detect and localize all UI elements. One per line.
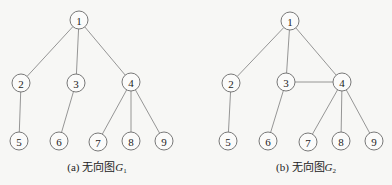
node-label: 9	[161, 136, 167, 148]
node-g2-4: 4	[333, 73, 351, 91]
node-g1-4: 4	[122, 73, 140, 91]
node-label: 4	[128, 77, 134, 89]
caption-g2: (b) 无向图G2	[276, 158, 336, 175]
node-label: 1	[287, 16, 293, 28]
node-g2-1: 1	[281, 12, 299, 30]
node-g2-8: 8	[332, 132, 350, 150]
node-g1-5: 5	[10, 132, 28, 150]
edge-g2-1-2	[237, 28, 284, 77]
edge-g2-4-9	[346, 90, 369, 133]
node-label: 9	[371, 136, 377, 148]
caption-g1: (a) 无向图G1	[67, 158, 126, 175]
node-g2-6: 6	[259, 132, 277, 150]
node-label: 7	[95, 137, 101, 149]
edge-g1-1-3	[76, 29, 78, 74]
node-g1-7: 7	[89, 133, 107, 151]
node-label: 3	[283, 77, 289, 89]
node-g1-2: 2	[12, 74, 30, 92]
edge-g1-4-9	[135, 90, 159, 133]
node-g2-3: 3	[277, 73, 295, 91]
node-label: 5	[225, 136, 231, 148]
node-g2-2: 2	[222, 74, 240, 92]
graph-g1: 123456789	[10, 11, 173, 151]
edge-g2-4-7	[312, 90, 337, 134]
caption-g2-sub: 2	[333, 167, 337, 175]
node-label: 7	[305, 137, 311, 149]
node-g1-6: 6	[50, 132, 68, 150]
graph-g2-nodes: 123456789	[219, 12, 383, 151]
node-label: 2	[228, 78, 234, 90]
node-label: 6	[56, 136, 62, 148]
node-label: 8	[128, 136, 134, 148]
edge-g1-3-6	[62, 92, 74, 133]
node-label: 3	[73, 78, 79, 90]
node-label: 2	[18, 78, 24, 90]
node-label: 4	[339, 77, 345, 89]
edge-g2-2-5	[228, 92, 230, 132]
node-g1-3: 3	[67, 74, 85, 92]
node-g2-5: 5	[219, 132, 237, 150]
node-g1-9: 9	[155, 132, 173, 150]
caption-g1-var: G	[115, 161, 123, 173]
caption-g2-var: G	[325, 161, 333, 173]
node-label: 5	[16, 136, 22, 148]
node-label: 6	[265, 136, 271, 148]
edge-g1-2-5	[19, 92, 20, 132]
node-g1-8: 8	[122, 132, 140, 150]
edge-g1-4-7	[102, 90, 126, 134]
edge-g2-3-6	[271, 91, 284, 133]
edge-g2-1-3	[287, 30, 290, 73]
node-g2-7: 7	[299, 133, 317, 151]
node-g1-1: 1	[70, 11, 88, 29]
graph-g2: 123456789	[219, 12, 383, 151]
edge-g1-1-2	[27, 27, 73, 77]
node-label: 8	[338, 136, 344, 148]
graph-g1-nodes: 123456789	[10, 11, 173, 151]
node-label: 1	[76, 15, 82, 27]
caption-g1-prefix: (a) 无向图	[67, 161, 115, 173]
edge-g2-4-8	[341, 91, 342, 132]
edge-g1-1-4	[85, 27, 125, 75]
node-g2-9: 9	[365, 132, 383, 150]
edge-g2-1-4	[296, 28, 336, 75]
caption-g2-prefix: (b) 无向图	[276, 161, 325, 173]
caption-g1-sub: 1	[123, 167, 127, 175]
